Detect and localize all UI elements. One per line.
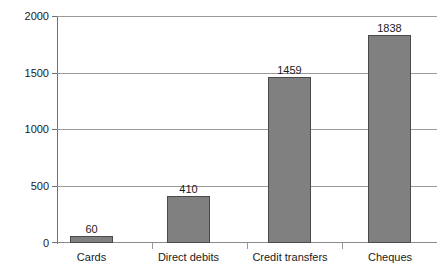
bar-credit-transfers xyxy=(268,77,311,243)
y-tick-1000 xyxy=(52,129,57,130)
y-axis-labels: 2000 1500 1000 500 0 xyxy=(0,0,49,273)
bar-value-credit-transfers: 1459 xyxy=(268,65,311,76)
x-label-cheques: Cheques xyxy=(345,252,435,263)
plot-area xyxy=(57,16,437,243)
y-tick-2000 xyxy=(52,16,57,17)
y-tick-label-1000: 1000 xyxy=(25,124,49,135)
bar-cards xyxy=(70,236,113,243)
bar-value-cheques: 1838 xyxy=(368,23,411,34)
y-tick-500 xyxy=(52,186,57,187)
y-tick-0 xyxy=(52,242,57,243)
x-label-credit-transfers: Credit transfers xyxy=(240,252,340,263)
gridline-2000 xyxy=(57,16,437,17)
bar-direct-debits xyxy=(167,196,210,243)
y-tick-label-2000: 2000 xyxy=(25,11,49,22)
y-tick-label-500: 500 xyxy=(31,181,49,192)
y-tick-label-0: 0 xyxy=(43,238,49,249)
bar-value-direct-debits: 410 xyxy=(167,184,210,195)
x-label-cards: Cards xyxy=(51,252,132,263)
x-separator-tick-1 xyxy=(152,243,153,249)
bar-chart: 2000 1500 1000 500 0 60 410 1459 1838 Ca… xyxy=(0,0,448,273)
y-tick-1500 xyxy=(52,73,57,74)
x-separator-tick-2 xyxy=(247,243,248,249)
x-separator-tick-3 xyxy=(342,243,343,249)
bar-cheques xyxy=(368,35,411,243)
x-label-direct-debits: Direct debits xyxy=(140,252,237,263)
bar-value-cards: 60 xyxy=(70,224,113,235)
y-tick-label-1500: 1500 xyxy=(25,68,49,79)
